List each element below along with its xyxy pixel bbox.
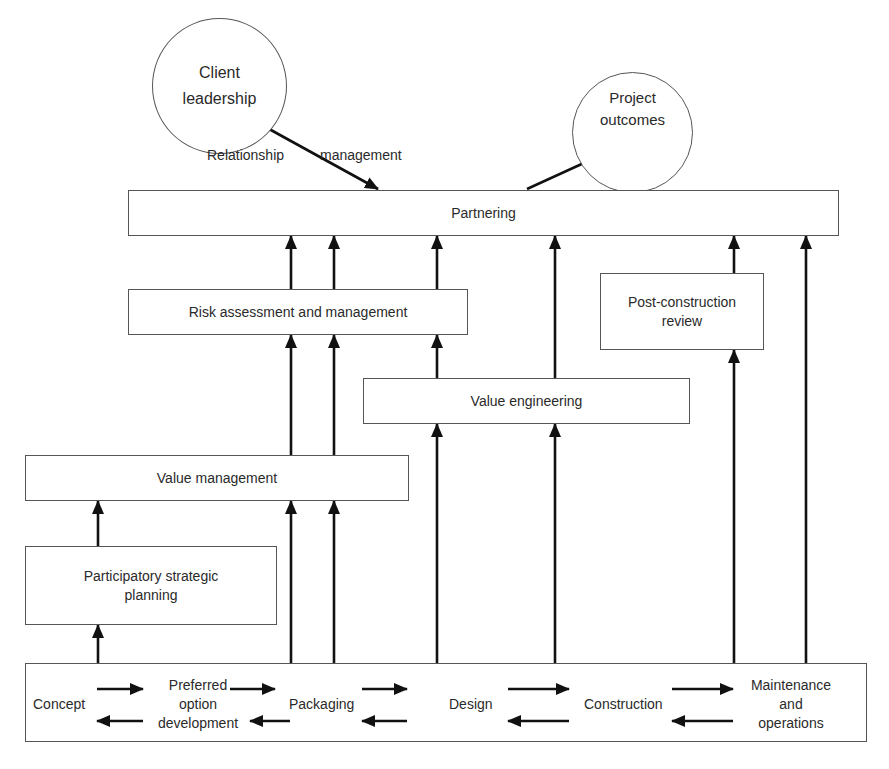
participatory-line2: planning	[84, 586, 219, 605]
client-leadership-node: Client leadership	[152, 18, 287, 154]
project-outcomes-line2: outcomes	[600, 109, 665, 131]
stage-maintenance-line3: operations	[736, 714, 846, 733]
stage-preferred-line2: option	[148, 695, 248, 714]
value-engineering-box: Value engineering	[363, 378, 690, 424]
partnering-label: Partnering	[451, 204, 516, 223]
project-outcomes-line1: Project	[600, 87, 665, 109]
stage-construction: Construction	[584, 695, 663, 714]
project-outcomes-node: Project outcomes	[572, 72, 693, 193]
management-label: management	[320, 146, 402, 165]
post-construction-line1: Post-construction	[628, 293, 736, 312]
stage-maintenance-operations: Maintenance and operations	[736, 676, 846, 733]
post-construction-review-box: Post-construction review	[600, 273, 764, 350]
stage-design: Design	[449, 695, 493, 714]
stage-concept: Concept	[33, 695, 85, 714]
value-engineering-label: Value engineering	[471, 392, 583, 411]
value-management-label: Value management	[157, 469, 277, 488]
risk-assessment-label: Risk assessment and management	[189, 303, 408, 322]
stage-packaging: Packaging	[289, 695, 354, 714]
stage-preferred-line1: Preferred	[148, 676, 248, 695]
stage-preferred-line3: development	[148, 714, 248, 733]
partnering-box: Partnering	[128, 190, 839, 236]
value-management-box: Value management	[25, 455, 409, 501]
risk-assessment-box: Risk assessment and management	[128, 289, 468, 335]
participatory-planning-box: Participatory strategic planning	[25, 546, 277, 625]
post-construction-line2: review	[628, 312, 736, 331]
client-leadership-line1: Client	[183, 60, 257, 86]
stage-maintenance-line2: and	[736, 695, 846, 714]
participatory-line1: Participatory strategic	[84, 567, 219, 586]
stage-preferred-option-development: Preferred option development	[148, 676, 248, 733]
client-leadership-line2: leadership	[183, 86, 257, 112]
relationship-label: Relationship	[207, 146, 284, 165]
stage-maintenance-line1: Maintenance	[736, 676, 846, 695]
